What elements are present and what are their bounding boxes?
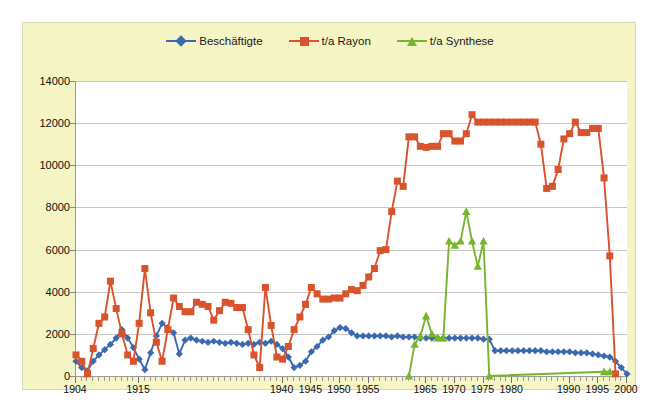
- x-axis-tick-minor: [431, 377, 432, 381]
- x-axis-tick-minor: [132, 377, 133, 381]
- legend-item-synthese[interactable]: t/a Synthese: [397, 35, 494, 47]
- series-besch-ftigte: [72, 320, 630, 378]
- x-axis-tick-minor: [592, 377, 593, 381]
- data-point-marker: [359, 282, 366, 289]
- legend-item-rayon[interactable]: t/a Rayon: [289, 35, 371, 47]
- data-point-marker: [400, 183, 407, 190]
- data-point-marker: [291, 364, 298, 371]
- x-axis-tick-minor: [517, 377, 518, 381]
- data-point-marker: [566, 348, 573, 355]
- x-axis-tick-minor: [184, 377, 185, 381]
- y-axis-tick-label: 2000: [46, 328, 70, 340]
- x-axis-tick-minor: [173, 377, 174, 381]
- data-point-marker: [210, 338, 217, 345]
- x-axis-tick-minor: [259, 377, 260, 381]
- data-point-marker: [73, 351, 80, 358]
- data-point-marker: [474, 334, 481, 341]
- x-axis-tick-label: 1990: [557, 383, 580, 395]
- x-axis-tick-minor: [109, 377, 110, 381]
- x-axis-tick-label: 1915: [126, 383, 149, 395]
- data-point-marker: [268, 322, 275, 329]
- x-axis-tick-minor: [551, 377, 552, 381]
- data-point-marker: [181, 337, 188, 344]
- x-axis-tick-label: 1965: [413, 383, 436, 395]
- x-axis-tick-label: 1975: [471, 383, 494, 395]
- x-axis-tick-label: 1980: [500, 383, 523, 395]
- data-point-marker: [336, 324, 343, 331]
- x-axis-tick-minor: [190, 377, 191, 381]
- data-point-marker: [216, 339, 223, 346]
- data-point-marker: [216, 307, 223, 314]
- data-point-marker: [285, 343, 292, 350]
- y-axis-tick-label: 6000: [46, 244, 70, 256]
- x-axis-tick-minor: [620, 377, 621, 381]
- x-axis-tick-minor: [586, 377, 587, 381]
- data-point-marker: [199, 338, 206, 345]
- data-point-marker: [90, 345, 97, 352]
- data-point-marker: [463, 130, 470, 137]
- data-point-marker: [193, 337, 200, 344]
- data-point-marker: [388, 208, 395, 215]
- data-point-marker: [600, 352, 607, 359]
- x-axis-tick-minor: [448, 377, 449, 381]
- x-axis-tick-minor: [362, 377, 363, 381]
- x-axis-tick-minor: [408, 377, 409, 381]
- legend-item-beschaeftigte[interactable]: Beschäftigte: [166, 35, 262, 47]
- data-point-marker: [549, 183, 556, 190]
- data-point-marker: [147, 309, 154, 316]
- data-point-marker: [308, 284, 315, 291]
- x-axis-tick-minor: [270, 377, 271, 381]
- data-point-marker: [302, 301, 309, 308]
- x-axis-tick-minor: [213, 377, 214, 381]
- data-point-marker: [136, 320, 143, 327]
- x-axis-tick-minor: [224, 377, 225, 381]
- data-point-marker: [428, 330, 436, 338]
- data-point-marker: [239, 341, 246, 348]
- x-axis-tick-minor: [580, 377, 581, 381]
- x-axis-tick-minor: [563, 377, 564, 381]
- x-axis-tick-minor: [460, 377, 461, 381]
- data-point-marker: [204, 339, 211, 346]
- x-axis-tick-minor: [494, 377, 495, 381]
- x-axis-tick-minor: [196, 377, 197, 381]
- data-point-marker: [130, 358, 137, 365]
- data-point-marker: [187, 334, 194, 341]
- data-point-marker: [479, 237, 487, 245]
- x-axis-tick-minor: [523, 377, 524, 381]
- data-point-marker: [394, 332, 401, 339]
- x-axis-tick-minor: [385, 377, 386, 381]
- x-axis-tick-minor: [127, 377, 128, 381]
- series-t-a-rayon: [73, 111, 620, 377]
- y-axis-tick-label: 4000: [46, 286, 70, 298]
- data-point-marker: [205, 303, 212, 310]
- x-axis-tick-minor: [603, 377, 604, 381]
- data-point-marker: [382, 332, 389, 339]
- x-axis-tick-minor: [345, 377, 346, 381]
- x-axis-tick-minor: [437, 377, 438, 381]
- legend-marker-triangle-icon: [397, 35, 427, 47]
- data-point-marker: [239, 304, 246, 311]
- data-point-marker: [462, 207, 470, 215]
- x-axis-tick-minor: [322, 377, 323, 381]
- data-point-marker: [159, 358, 166, 365]
- x-axis-tick-minor: [316, 377, 317, 381]
- legend-label-beschaeftigte: Beschäftigte: [198, 35, 262, 47]
- data-point-marker: [456, 237, 464, 245]
- data-point-marker: [434, 143, 441, 150]
- x-axis-tick-label: 1904: [63, 383, 86, 395]
- data-point-marker: [279, 356, 286, 363]
- data-point-marker: [606, 252, 613, 259]
- data-point-marker: [474, 262, 482, 270]
- x-axis-tick-minor: [121, 377, 122, 381]
- x-axis-tick-minor: [247, 377, 248, 381]
- data-point-marker: [124, 351, 131, 358]
- data-point-marker: [601, 174, 608, 181]
- x-axis-tick-minor: [287, 377, 288, 381]
- x-axis-tick-minor: [230, 377, 231, 381]
- data-point-marker: [176, 350, 183, 357]
- x-axis-tick-minor: [201, 377, 202, 381]
- data-point-marker: [572, 119, 579, 126]
- x-axis-tick-minor: [540, 377, 541, 381]
- x-axis-tick-minor: [615, 377, 616, 381]
- x-axis-tick-minor: [167, 377, 168, 381]
